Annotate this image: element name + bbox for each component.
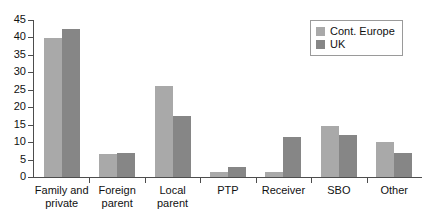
bar bbox=[62, 29, 80, 177]
legend-swatch-icon bbox=[316, 40, 325, 49]
bar bbox=[155, 86, 173, 177]
y-axis-tick-label: 25 bbox=[2, 84, 26, 95]
x-axis-tick bbox=[367, 178, 368, 183]
legend-label: UK bbox=[330, 39, 345, 50]
x-axis-tick bbox=[89, 178, 90, 183]
legend-swatch-icon bbox=[316, 27, 325, 36]
x-axis-category-label: SBO bbox=[311, 184, 366, 210]
bar bbox=[376, 142, 394, 177]
x-axis-category-label: Receiver bbox=[256, 184, 311, 210]
bar bbox=[44, 38, 62, 177]
x-axis-labels: Family andprivateForeignparentLocalparen… bbox=[34, 184, 422, 210]
y-axis-tick-label: 10 bbox=[2, 136, 26, 147]
x-axis-category-label: Foreignparent bbox=[89, 184, 144, 210]
y-axis-tick-label: 30 bbox=[2, 66, 26, 77]
y-axis-tick bbox=[28, 177, 34, 178]
x-axis-tick bbox=[200, 178, 201, 183]
y-axis-tick-label: 5 bbox=[2, 154, 26, 165]
bar-chart: 051015202530354045 Family andprivateFore… bbox=[0, 0, 432, 219]
bar bbox=[99, 154, 117, 177]
bar-group bbox=[200, 20, 255, 177]
bar bbox=[210, 172, 228, 177]
y-axis-tick-label: 40 bbox=[2, 31, 26, 42]
legend-label: Cont. Europe bbox=[330, 26, 395, 37]
x-axis-tick bbox=[256, 178, 257, 183]
legend-item-cont-europe: Cont. Europe bbox=[316, 25, 395, 38]
legend-item-uk: UK bbox=[316, 38, 395, 51]
bar bbox=[228, 167, 246, 177]
bar bbox=[321, 126, 339, 177]
bar bbox=[283, 137, 301, 177]
legend: Cont. Europe UK bbox=[310, 20, 403, 56]
bar bbox=[339, 135, 357, 177]
bar-group bbox=[256, 20, 311, 177]
y-axis-tick-label: 15 bbox=[2, 119, 26, 130]
bar bbox=[173, 116, 191, 177]
x-axis-category-label: Other bbox=[367, 184, 422, 210]
y-axis-tick-label: 45 bbox=[2, 14, 26, 25]
bar-group bbox=[34, 20, 89, 177]
bar bbox=[265, 172, 283, 177]
x-axis-category-label: PTP bbox=[200, 184, 255, 210]
x-axis-category-label: Family andprivate bbox=[34, 184, 89, 210]
x-axis-category-label: Localparent bbox=[145, 184, 200, 210]
x-axis-tick bbox=[311, 178, 312, 183]
x-axis-line bbox=[33, 177, 422, 178]
bar-group bbox=[145, 20, 200, 177]
y-axis-tick-label: 0 bbox=[2, 171, 26, 182]
bar bbox=[394, 153, 412, 177]
bar bbox=[117, 153, 135, 177]
x-axis-tick bbox=[145, 178, 146, 183]
y-axis-labels: 051015202530354045 bbox=[0, 0, 26, 219]
y-axis-tick-label: 35 bbox=[2, 49, 26, 60]
y-axis-tick-label: 20 bbox=[2, 101, 26, 112]
bar-group bbox=[89, 20, 144, 177]
